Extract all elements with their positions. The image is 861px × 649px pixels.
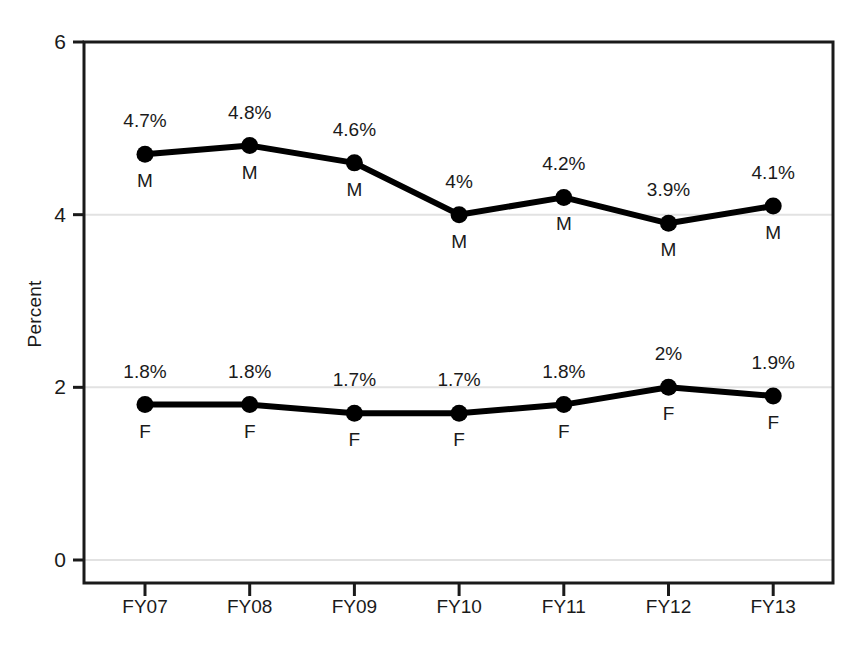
x-tick-label-fy08: FY08 [205, 596, 295, 618]
data-point-marker [241, 396, 258, 413]
y-tick-label: 4 [38, 204, 66, 225]
data-point-marker [241, 137, 258, 154]
data-point-series-letter: F [429, 430, 489, 449]
data-point-value-label: 1.9% [728, 353, 818, 372]
data-point-series-letter: F [534, 422, 594, 441]
data-point-series-letter: M [115, 171, 175, 190]
x-tick-label-fy11: FY11 [519, 596, 609, 618]
data-point-value-label: 2% [624, 344, 714, 363]
data-point-marker [137, 146, 154, 163]
data-point-value-label: 4.2% [519, 154, 609, 173]
data-point-value-label: 1.7% [414, 370, 504, 389]
data-point-marker [765, 387, 782, 404]
plot-frame [84, 42, 833, 583]
data-point-value-label: 1.7% [309, 370, 399, 389]
x-tick-label-fy12: FY12 [624, 596, 714, 618]
data-point-marker [451, 405, 468, 422]
data-point-series-letter: F [220, 422, 280, 441]
data-point-series-letter: M [639, 240, 699, 259]
x-tick-marks [145, 583, 773, 596]
data-point-marker [660, 379, 677, 396]
data-point-series-letter: M [743, 223, 803, 242]
gridlines [84, 42, 833, 560]
y-tick-label: 2 [38, 376, 66, 397]
data-point-series-letter: M [429, 232, 489, 251]
frame-rect [84, 42, 833, 583]
plot-area [0, 0, 861, 649]
data-point-marker [555, 189, 572, 206]
x-tick-label-fy10: FY10 [414, 596, 504, 618]
data-point-series-letter: F [743, 413, 803, 432]
y-tick-label: 0 [38, 549, 66, 570]
data-point-value-label: 4.1% [728, 163, 818, 182]
data-point-marker [555, 396, 572, 413]
y-tick-marks [73, 42, 84, 560]
data-point-value-label: 4% [414, 172, 504, 191]
x-tick-label-fy07: FY07 [100, 596, 190, 618]
data-point-value-label: 3.9% [624, 180, 714, 199]
data-point-value-label: 1.8% [519, 362, 609, 381]
data-point-marker [137, 396, 154, 413]
data-point-marker [765, 198, 782, 215]
data-point-series-letter: F [639, 404, 699, 423]
data-point-marker [346, 154, 363, 171]
data-point-series-letter: M [324, 180, 384, 199]
data-point-series-letter: F [324, 430, 384, 449]
data-point-value-label: 4.8% [205, 103, 295, 122]
data-point-value-label: 1.8% [100, 362, 190, 381]
data-point-marker [451, 206, 468, 223]
data-point-series-letter: F [115, 422, 175, 441]
data-point-value-label: 4.7% [100, 111, 190, 130]
line-chart: Percent 0246 FY07FY08FY09FY10FY11FY12FY1… [0, 0, 861, 649]
data-point-series-letter: M [534, 214, 594, 233]
data-point-series-letter: M [220, 163, 280, 182]
data-point-marker [346, 405, 363, 422]
data-point-marker [660, 215, 677, 232]
data-point-value-label: 4.6% [309, 120, 399, 139]
x-tick-label-fy09: FY09 [309, 596, 399, 618]
data-point-value-label: 1.8% [205, 362, 295, 381]
y-tick-label: 6 [38, 31, 66, 52]
x-tick-label-fy13: FY13 [728, 596, 818, 618]
